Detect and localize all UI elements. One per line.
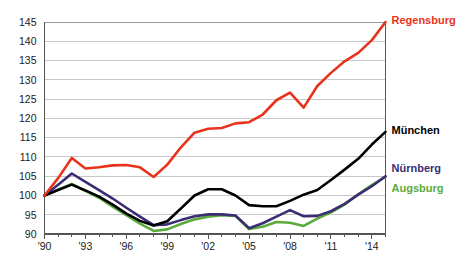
y-tick-label: 95 [25,209,37,221]
x-tick-label: '11 [324,240,337,252]
y-tick-label: 100 [19,189,37,201]
y-tick-label: 135 [19,54,37,66]
y-tick-label: 125 [19,93,37,105]
x-tick-label: '96 [119,240,133,252]
x-tick-label: '90 [38,240,52,252]
series-line-augsburg [45,177,386,231]
x-tick-label: '99 [160,240,174,252]
x-tick-label: '93 [79,240,93,252]
y-tick-label: 120 [19,112,37,124]
y-tick-label: 90 [25,228,37,240]
x-tick-label: '05 [242,240,256,252]
y-axis-tick-labels: 9095100105110115120125130135140145 [19,16,37,240]
series-label-augsburg: Augsburg [392,182,444,194]
chart-canvas: 9095100105110115120125130135140145 '90'9… [0,0,463,264]
y-tick-label: 105 [19,170,37,182]
series-line-nurnberg [45,173,386,228]
line-chart: 9095100105110115120125130135140145 '90'9… [0,0,463,264]
series-labels: RegensburgMünchenNürnbergAugsburg [392,14,456,194]
x-tick-label: '02 [201,240,215,252]
x-axis-tick-labels: '90'93'96'99'02'05'08'11'14 [38,240,379,252]
y-tick-label: 140 [19,35,37,47]
series-label-nurnberg: Nürnberg [392,162,442,174]
series-label-munchen: München [392,124,441,136]
y-tick-label: 110 [20,151,37,163]
series-line-regensburg [45,22,386,195]
data-series [45,22,386,231]
series-label-regensburg: Regensburg [392,14,456,26]
y-tick-label: 145 [19,16,37,28]
x-tick-label: '08 [283,240,297,252]
y-tick-label: 115 [20,131,37,143]
x-tick-label: '14 [365,240,379,252]
y-tick-label: 130 [19,74,37,86]
